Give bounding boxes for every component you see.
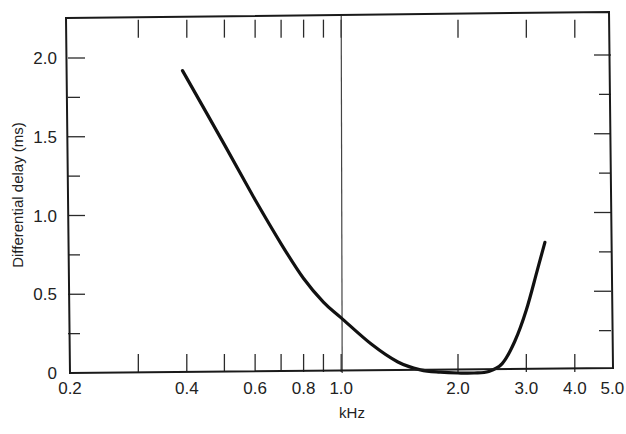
y-tick-label: 0.5 bbox=[33, 285, 57, 304]
x-tick-label: 0.2 bbox=[58, 379, 82, 398]
y-ticks-right bbox=[594, 55, 611, 331]
plot-frame bbox=[66, 12, 613, 373]
x-tick-labels: 0.20.40.60.81.02.03.04.05.0 bbox=[58, 379, 624, 398]
x-tick-label: 3.0 bbox=[515, 379, 539, 398]
x-tick-label: 2.0 bbox=[446, 379, 470, 398]
x-tick-label: 1.0 bbox=[329, 379, 353, 398]
y-tick-labels: 00.51.01.52.0 bbox=[33, 49, 57, 383]
y-ticks-left bbox=[68, 58, 85, 334]
x-ticks-top bbox=[138, 20, 574, 38]
y-tick-label: 0 bbox=[48, 364, 57, 383]
delay-curve bbox=[183, 71, 545, 374]
y-tick-label: 2.0 bbox=[33, 49, 57, 68]
y-tick-label: 1.0 bbox=[33, 207, 57, 226]
x-tick-label: 0.4 bbox=[175, 379, 199, 398]
x-tick-label: 0.6 bbox=[243, 379, 267, 398]
y-axis-label: Differential delay (ms) bbox=[9, 122, 26, 268]
differential-delay-chart: 0.20.40.60.81.02.03.04.05.0 00.51.01.52.… bbox=[0, 0, 626, 434]
y-tick-label: 1.5 bbox=[33, 128, 57, 147]
x-tick-label: 5.0 bbox=[601, 379, 625, 398]
x-tick-label: 0.8 bbox=[292, 379, 316, 398]
x-axis-label: kHz bbox=[339, 404, 365, 421]
x-tick-label: 4.0 bbox=[563, 379, 587, 398]
